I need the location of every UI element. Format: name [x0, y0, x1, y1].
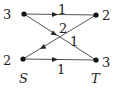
sink-label: T — [91, 71, 101, 86]
graph-diagram: 3 2 2 3 S T 1 2 1 1 — [0, 0, 117, 88]
node-label-br: 3 — [102, 55, 110, 70]
edge-label-bottom: 1 — [57, 62, 65, 77]
node-top-left — [21, 11, 26, 16]
node-bottom-left — [20, 56, 25, 61]
edge-label-cross-2: 2 — [59, 21, 67, 36]
node-label-bl: 2 — [3, 53, 11, 68]
node-label-tl: 3 — [3, 7, 11, 22]
arrow-tr-bl-icon — [40, 44, 46, 49]
node-label-tr: 2 — [102, 8, 110, 23]
edge-bottom — [23, 59, 96, 60]
node-bottom-right — [93, 57, 98, 62]
node-top-right — [93, 12, 98, 17]
edge-label-top: 1 — [58, 2, 66, 17]
source-label: S — [19, 71, 28, 86]
edge-label-cross-1: 1 — [70, 34, 78, 49]
